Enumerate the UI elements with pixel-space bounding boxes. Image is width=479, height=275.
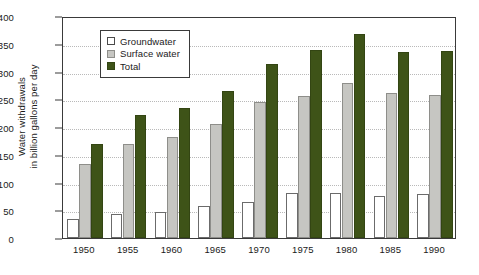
y-axis-tick-mark — [55, 211, 62, 212]
y-axis-tick-mark — [55, 17, 62, 18]
x-axis-tick-label: 1960 — [161, 244, 183, 255]
bar-groundwater — [286, 193, 298, 238]
legend-item-total: Total — [107, 60, 180, 73]
bar-groundwater — [417, 194, 429, 238]
bar-groundwater — [67, 219, 79, 238]
y-axis-tick-label: 200 — [0, 123, 14, 134]
legend-swatch-groundwater-icon — [107, 37, 115, 45]
y-axis-tick-mark — [55, 183, 62, 184]
bar-total — [441, 51, 453, 238]
bar-surface-water — [342, 83, 354, 238]
bar-total — [354, 34, 366, 238]
bar-total — [91, 144, 103, 238]
bar-surface-water — [254, 102, 266, 238]
y-axis-tick-mark — [55, 44, 62, 45]
x-axis-tick-label: 1955 — [117, 244, 139, 255]
bar-groundwater — [155, 212, 167, 238]
bar-total — [398, 52, 410, 238]
bar-surface-water — [123, 144, 135, 238]
x-axis-tick-label: 1965 — [204, 244, 226, 255]
bar-group — [369, 18, 413, 238]
y-axis-tick-mark — [55, 155, 62, 156]
bar-groundwater — [374, 196, 386, 238]
y-axis-tick-label: 300 — [0, 67, 14, 78]
legend-label-groundwater: Groundwater — [120, 36, 176, 47]
legend-swatch-total-icon — [107, 62, 115, 70]
bar-total — [179, 108, 191, 238]
bar-surface-water — [386, 93, 398, 238]
bar-total — [135, 115, 147, 238]
bar-total — [222, 91, 234, 238]
bar-surface-water — [210, 124, 222, 238]
y-axis-tick-label: 150 — [0, 150, 14, 161]
bar-group — [282, 18, 326, 238]
bar-chart-figure: Water withdrawals in billion gallons per… — [0, 0, 479, 275]
bar-group — [238, 18, 282, 238]
bar-groundwater — [242, 202, 254, 238]
legend-label-total: Total — [120, 61, 141, 72]
y-axis-tick-mark — [55, 239, 62, 240]
y-axis-tick-label: 250 — [0, 95, 14, 106]
legend-item-surface-water: Surface water — [107, 48, 180, 61]
bar-group — [194, 18, 238, 238]
bar-group — [413, 18, 457, 238]
bar-surface-water — [79, 164, 91, 238]
bar-total — [310, 50, 322, 238]
bar-surface-water — [167, 137, 179, 238]
y-axis-tick-mark — [55, 128, 62, 129]
legend-item-groundwater: Groundwater — [107, 35, 180, 48]
x-axis-tick-label: 1970 — [248, 244, 270, 255]
y-axis-tick-label: 100 — [0, 178, 14, 189]
legend-label-surface-water: Surface water — [120, 48, 180, 59]
y-axis-tick-mark — [55, 100, 62, 101]
chart-legend: Groundwater Surface water Total — [100, 30, 190, 78]
bar-surface-water — [298, 96, 310, 238]
bar-groundwater — [330, 193, 342, 239]
y-axis-tick-label: 50 — [0, 206, 14, 217]
x-axis-tick-label: 1975 — [292, 244, 314, 255]
bar-total — [266, 64, 278, 238]
bar-groundwater — [111, 214, 123, 238]
y-axis-tick-mark — [55, 72, 62, 73]
bar-surface-water — [429, 95, 441, 238]
x-axis-tick-label: 1950 — [73, 244, 95, 255]
x-axis-tick-label: 1980 — [336, 244, 358, 255]
bar-group — [326, 18, 370, 238]
x-axis-tick-label: 1990 — [423, 244, 445, 255]
y-axis-tick-label: 350 — [0, 39, 14, 50]
bar-groundwater — [198, 206, 210, 238]
x-axis-tick-label: 1985 — [380, 244, 402, 255]
y-axis-title: Water withdrawals in billion gallons per… — [16, 32, 39, 202]
y-axis-tick-label: 0 — [0, 234, 14, 245]
legend-swatch-surface-water-icon — [107, 50, 115, 58]
y-axis-tick-label: 400 — [0, 12, 14, 23]
